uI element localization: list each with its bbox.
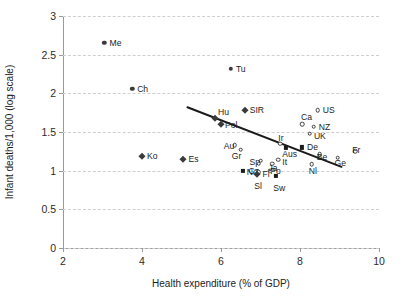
data-point-marker — [315, 108, 320, 113]
data-point-label: Sl — [254, 182, 262, 191]
data-point-marker — [276, 158, 281, 163]
x-tick-label: 6 — [218, 255, 224, 267]
data-point-marker — [300, 145, 304, 149]
x-tick-label: 2 — [60, 255, 66, 267]
data-point-label: Fr — [352, 146, 360, 155]
data-point-label: Es — [188, 155, 198, 164]
data-point-label: Me — [109, 39, 121, 48]
scatter-chart: Infant deaths/1,000 (log scale) Health e… — [0, 0, 412, 306]
y-tick-label: 2 — [50, 87, 56, 99]
data-point-label: It — [282, 158, 287, 167]
x-tick-mark — [63, 248, 64, 252]
data-point-marker — [308, 131, 313, 136]
data-point-label: NZ — [319, 123, 330, 132]
x-tick-mark — [142, 248, 143, 252]
data-point-label: Ca — [301, 113, 312, 122]
data-point-marker — [312, 124, 317, 129]
data-point-label: UK — [314, 132, 326, 141]
x-axis-title: Health expenditure (% of GDP) — [152, 278, 290, 289]
data-point-label: Au — [224, 142, 235, 151]
x-tick-label: 4 — [139, 255, 145, 267]
data-point-label: SIR — [250, 106, 264, 115]
data-point-label: Ge — [335, 159, 346, 168]
y-tick-label: 3 — [50, 10, 56, 22]
data-point-label: Nl — [309, 167, 317, 176]
data-point-label: Gr — [232, 152, 242, 161]
x-tick-mark — [379, 248, 380, 252]
data-point-label: Sw — [273, 184, 285, 193]
data-point-marker — [241, 169, 245, 173]
x-tick-label: 8 — [297, 255, 303, 267]
y-axis-title: Infant deaths/1,000 (log scale) — [4, 65, 15, 200]
data-point-label: Ja — [268, 164, 277, 173]
y-tick-label: 2.5 — [41, 49, 56, 61]
data-point-label: US — [323, 106, 335, 115]
y-tick-label: 1 — [50, 165, 56, 177]
y-tick-label: 0.5 — [41, 203, 56, 215]
data-point-label: De — [307, 143, 318, 152]
y-tick-label: 1.5 — [41, 126, 56, 138]
data-point-marker — [300, 122, 305, 127]
data-point-label: Be — [317, 153, 328, 162]
data-point-label: Ir — [278, 134, 283, 143]
data-point-label: Pol — [225, 121, 237, 130]
x-tick-mark — [221, 248, 222, 252]
plot-area: 00.511.522.53 246810 MeTuChSIRHuPolUSCaN… — [63, 16, 379, 248]
y-tick-label: 0 — [50, 242, 56, 254]
data-point-label: Tu — [236, 65, 246, 74]
data-point-label: Hu — [218, 108, 229, 117]
x-tick-mark — [300, 248, 301, 252]
data-point-marker — [274, 174, 278, 178]
data-point-label: Ko — [147, 152, 158, 161]
x-tick-label: 10 — [373, 255, 385, 267]
trend-line — [63, 16, 379, 248]
data-point-label: Ch — [137, 85, 148, 94]
